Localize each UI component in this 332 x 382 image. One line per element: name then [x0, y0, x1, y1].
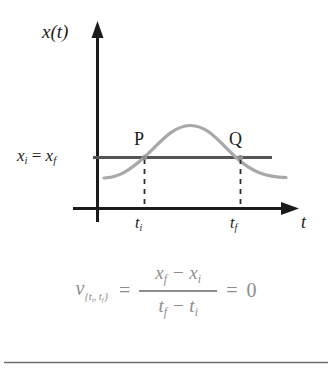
point-label-q: Q	[229, 130, 242, 148]
y-axis-arrowhead	[92, 21, 104, 38]
subscript-close-brace: }	[104, 290, 108, 302]
denominator-minus: −	[172, 295, 185, 316]
point-marker-q	[238, 155, 243, 160]
numerator-xi-symbol: x	[189, 262, 197, 283]
average-velocity-equation: v{ti, tf} = xf − xi tf − ti = 0	[0, 262, 332, 320]
x-axis	[73, 202, 299, 215]
velocity-symbol-group: v{ti, tf}	[76, 277, 110, 304]
position-curve	[104, 125, 286, 178]
graph-canvas	[0, 0, 332, 382]
equation-fraction: xf − xi tf − ti	[139, 262, 217, 320]
fraction-denominator: tf − ti	[154, 295, 201, 320]
equation-result: 0	[246, 279, 256, 302]
x-final-symbol: x	[46, 146, 54, 165]
denominator-tf-subscript: f	[164, 306, 167, 319]
equals-sign: =	[32, 146, 42, 165]
numerator-minus: −	[172, 262, 185, 283]
tick-tf-subscript: f	[234, 222, 237, 233]
x-final-subscript: f	[53, 155, 56, 166]
tick-label-tf: tf	[230, 215, 237, 233]
x-axis-label: t	[301, 213, 306, 231]
point-marker-p	[142, 155, 147, 160]
velocity-subscript: {ti, tf}	[84, 290, 107, 302]
numerator-xi-subscript: i	[198, 273, 201, 286]
fraction-numerator: xf − xi	[151, 262, 205, 287]
equation-relation-2: =	[217, 279, 246, 302]
y-axis	[92, 21, 104, 222]
numerator-xf-symbol: x	[155, 262, 163, 283]
point-label-p: P	[134, 130, 144, 148]
numerator-xf-subscript: f	[164, 273, 167, 286]
reference-value-label: xi = xf	[17, 147, 56, 167]
x-initial-symbol: x	[17, 146, 25, 165]
tick-label-ti: ti	[135, 215, 142, 233]
y-axis-label: x(t)	[42, 22, 68, 41]
kinematics-figure: x(t) xi = xf P Q ti tf t v{ti, tf} = xf …	[0, 0, 332, 382]
x-initial-subscript: i	[25, 155, 28, 166]
tick-ti-subscript: i	[139, 222, 142, 233]
fraction-bar	[139, 290, 217, 292]
denominator-ti-subscript: i	[195, 306, 198, 319]
equation-relation-1: =	[110, 279, 139, 302]
x-axis-arrowhead	[281, 202, 299, 215]
